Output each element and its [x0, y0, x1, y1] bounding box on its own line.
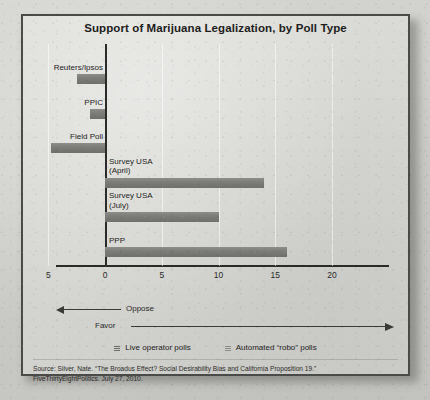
source-divider [33, 359, 398, 360]
chart-legend: Live operator pollsAutomated “robo” poll… [23, 343, 408, 352]
bar-category-label: Field Poll [0, 132, 103, 142]
oppose-label: Oppose [126, 304, 154, 313]
legend-swatch-icon [114, 345, 120, 351]
chart-bar [90, 109, 105, 119]
bar-category-label: PPP [109, 236, 125, 246]
legend-label: Live operator polls [125, 343, 190, 352]
chart-figure: Support of Marijuana Legalization, by Po… [21, 14, 410, 376]
zero-axis-line [105, 44, 107, 266]
x-axis-tick-label: 5 [151, 270, 173, 280]
source-note-line-1: Source: Silver, Nate. “The Broadus Effec… [33, 364, 398, 374]
gridline [48, 44, 49, 266]
bar-category-label: Reuters/Ipsos [0, 63, 103, 73]
x-axis-tick-label: 15 [264, 270, 286, 280]
source-note-line-2: FiveThirtyEightPolitics. July 27, 2010. [33, 374, 398, 384]
chart-bar [105, 247, 287, 257]
bar-category-label: Survey USA (July) [109, 191, 153, 210]
chart-bar [77, 74, 105, 84]
chart-bar [105, 212, 219, 222]
favor-label: Favor [95, 321, 115, 330]
x-axis-tick-label: 0 [94, 270, 116, 280]
x-axis-tick-label: 10 [208, 270, 230, 280]
bar-category-label: PPIC [0, 98, 103, 108]
legend-swatch-icon [225, 345, 231, 351]
gridline [162, 44, 163, 266]
legend-entry: Live operator polls [114, 343, 190, 352]
arrow-right-icon [385, 323, 394, 331]
source-note: Source: Silver, Nate. “The Broadus Effec… [33, 364, 398, 383]
favor-arrow-line [131, 326, 387, 327]
gridline [275, 44, 276, 266]
chart-bar [51, 143, 105, 153]
favor-annotation: Favor [95, 321, 395, 333]
legend-label: Automated “robo” polls [236, 343, 317, 352]
oppose-annotation: Oppose [56, 304, 176, 316]
gridline [219, 44, 220, 266]
gridline [332, 44, 333, 266]
x-axis-tick-label: 5 [37, 270, 59, 280]
legend-entry: Automated “robo” polls [225, 343, 317, 352]
chart-bar [105, 178, 264, 188]
bar-category-label: Survey USA (April) [109, 157, 153, 176]
zero-tick-mark [105, 259, 107, 267]
x-axis-tick-label: 20 [321, 270, 343, 280]
oppose-arrow-line [63, 309, 121, 310]
